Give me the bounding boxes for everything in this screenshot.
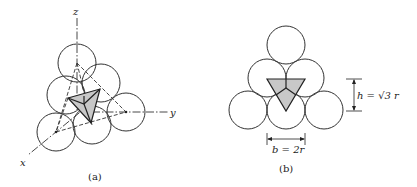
panel-a-caption: (a) [88, 171, 102, 182]
y-axis-label: y [169, 107, 176, 118]
z-axis-label: z [72, 6, 79, 17]
panel-a: z y x (a) [20, 6, 176, 182]
arrow-down-icon [352, 106, 356, 111]
arrow-right-icon [300, 137, 305, 141]
height-label: h = √3 r [357, 90, 400, 101]
panel-b-caption: (b) [279, 163, 293, 174]
center-dot [55, 131, 58, 134]
panel-b: h = √3 r b = 2r (b) [229, 26, 400, 174]
sphere-bottom-right [305, 91, 343, 129]
x-axis-label: x [20, 157, 26, 168]
center-dot [125, 111, 128, 114]
arrow-up-icon [352, 79, 356, 84]
sphere-top [267, 26, 305, 64]
arrow-left-icon [267, 137, 272, 141]
figure-canvas: z y x (a) h = √3 r b = 2r (b) [0, 0, 417, 187]
sphere-bottom-left [229, 91, 267, 129]
base-label: b = 2r [272, 144, 306, 155]
tetra-dash-left [56, 98, 68, 132]
